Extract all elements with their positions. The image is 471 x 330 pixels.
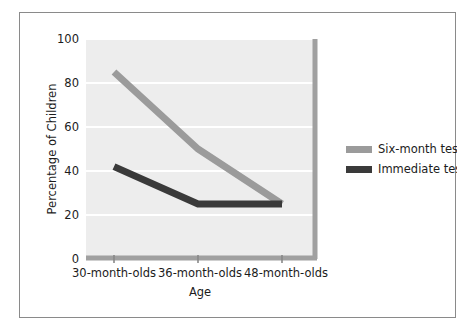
x-tick-label-1: 36-month-olds	[158, 266, 242, 280]
x-tick-label-0: 30-month-olds	[72, 266, 156, 280]
screenshot-root: 100 80 60 40 20 0 Percentage of Children…	[0, 0, 471, 330]
chart-canvas: 100 80 60 40 20 0 Percentage of Children…	[20, 13, 457, 319]
x-axis-title: Age	[189, 285, 211, 299]
legend-label-six-month-test: Six-month test	[378, 142, 457, 156]
y-tick-label-40: 40	[64, 164, 79, 178]
legend: Six-month test Immediate test	[346, 142, 457, 176]
x-axis-tick-labels: 30-month-olds 36-month-olds 48-month-old…	[72, 266, 328, 280]
y-tick-label-80: 80	[64, 76, 79, 90]
legend-label-immediate-test: Immediate test	[378, 162, 457, 176]
y-tick-label-60: 60	[64, 120, 79, 134]
y-tick-label-20: 20	[64, 208, 79, 222]
y-axis-tick-labels: 100 80 60 40 20 0	[57, 32, 79, 266]
x-tick-label-2: 48-month-olds	[244, 266, 328, 280]
legend-swatch-six-month-test	[346, 146, 372, 153]
y-axis-title: Percentage of Children	[45, 84, 59, 215]
figure-frame: 100 80 60 40 20 0 Percentage of Children…	[19, 12, 456, 318]
y-tick-label-0: 0	[72, 252, 79, 266]
legend-swatch-immediate-test	[346, 166, 372, 173]
y-tick-label-100: 100	[57, 32, 79, 46]
line-chart: 100 80 60 40 20 0 Percentage of Children…	[20, 13, 457, 319]
